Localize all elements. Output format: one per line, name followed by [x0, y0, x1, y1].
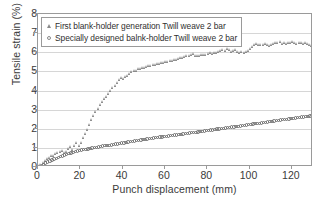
x-tick-label: 100: [234, 169, 264, 181]
data-point: [78, 144, 80, 147]
triangle-icon: [45, 22, 54, 31]
chart-legend: First blank-holder generation Twill weav…: [41, 17, 242, 47]
x-tick-label: 20: [64, 169, 94, 181]
data-point: [101, 100, 103, 103]
data-point: [73, 144, 75, 147]
data-point: [107, 92, 109, 95]
legend-item-specially-designed[interactable]: Specially designed balnk-holder Twill we…: [45, 32, 237, 44]
data-point: [103, 97, 105, 100]
x-tick-label: 80: [191, 169, 221, 181]
x-tick-label: 120: [276, 169, 306, 181]
data-point: [310, 114, 312, 117]
x-axis-title: Punch displacement (mm): [37, 183, 312, 195]
data-point: [114, 84, 116, 87]
legend-item-label: Specially designed balnk-holder Twill we…: [55, 33, 237, 43]
data-point: [116, 81, 118, 84]
x-tick-label: 40: [107, 169, 137, 181]
data-point: [88, 123, 90, 126]
data-point: [90, 118, 92, 121]
data-point: [86, 128, 88, 131]
data-point: [310, 44, 312, 47]
data-point: [82, 136, 84, 139]
chart-figure: Tensile strain (%) 012345678 02040608010…: [0, 0, 322, 203]
data-point: [99, 103, 101, 106]
data-point: [80, 141, 82, 144]
circle-icon: [45, 34, 54, 43]
x-tick-label: 60: [149, 169, 179, 181]
data-point: [94, 110, 96, 113]
data-point: [92, 114, 94, 117]
x-tick-label: 0: [22, 169, 52, 181]
data-point: [97, 107, 99, 110]
data-point: [84, 132, 86, 135]
legend-item-first-generation[interactable]: First blank-holder generation Twill weav…: [45, 20, 237, 32]
legend-item-label: First blank-holder generation Twill weav…: [55, 21, 226, 31]
data-point: [105, 95, 107, 98]
